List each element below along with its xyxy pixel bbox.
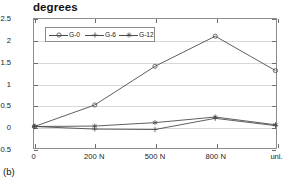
y-tick-label: -0.5 [0, 145, 11, 154]
figure-panel-b: degrees G-0G-6G-12 -0.500.511.522.5 0200… [0, 0, 293, 186]
y-tick-label: 0.5 [0, 101, 11, 110]
x-tick-label: 0 [31, 152, 35, 161]
plus-icon [152, 127, 157, 132]
asterisk-icon [126, 32, 131, 37]
legend-marker-sample [49, 29, 68, 40]
y-tick-mark [272, 150, 276, 151]
x-tick-label: unl. [270, 152, 282, 161]
asterisk-icon [124, 30, 133, 39]
chart-title: degrees [33, 1, 78, 13]
x-tick-mark [278, 19, 279, 23]
plot-area: G-0G-6G-12 [33, 18, 277, 149]
x-tick-label: 200 N [84, 152, 104, 161]
legend-entry[interactable]: G-12 [119, 28, 154, 41]
legend-label: G-12 [139, 31, 154, 38]
y-tick-label: 1 [7, 79, 11, 88]
plus-icon [90, 30, 99, 39]
plus-icon [92, 32, 97, 37]
y-tick-mark [34, 150, 38, 151]
circle-icon [56, 32, 60, 36]
y-tick-label: 2.5 [0, 14, 11, 23]
chart-legend: G-0G-6G-12 [45, 27, 155, 42]
x-tick-mark [278, 144, 279, 148]
legend-label: G-6 [105, 31, 116, 38]
legend-label: G-0 [69, 31, 80, 38]
y-tick-label: 1.5 [0, 57, 11, 66]
legend-entry[interactable]: G-0 [49, 28, 80, 41]
x-tick-label: 500 N [145, 152, 165, 161]
series-line [34, 36, 275, 126]
legend-entry[interactable]: G-6 [85, 28, 116, 41]
legend-marker-sample [85, 29, 104, 40]
circle-icon [54, 30, 63, 39]
x-tick-label: 800 N [206, 152, 226, 161]
legend-marker-sample [119, 29, 138, 40]
y-tick-label: 2 [7, 35, 11, 44]
figure-caption: (b) [3, 166, 15, 177]
y-tick-label: 0 [7, 123, 11, 132]
